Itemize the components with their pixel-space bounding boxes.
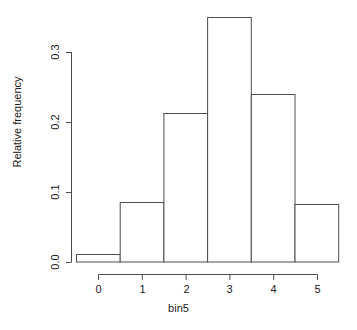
x-tick-label-2: 2 [174,283,199,295]
bar-1 [120,203,164,263]
bar-2 [164,114,208,263]
y-tick-label-1: 0.1 [49,179,61,205]
bar-4 [251,95,295,263]
x-axis-title: bin5 [0,302,357,314]
bar-5 [295,205,339,263]
y-tick-label-2: 0.2 [49,109,61,135]
bar-0 [77,255,121,263]
x-tick-label-3: 3 [217,283,242,295]
x-tick-label-0: 0 [86,283,111,295]
x-axis [99,275,318,281]
y-tick-label-3: 0.3 [49,39,61,65]
histogram-plot: 0.0 0.1 0.2 0.3 0 1 2 3 4 5 Relative fre… [0,0,357,330]
bars-group [77,18,339,263]
y-axis [66,52,72,263]
x-tick-label-4: 4 [261,283,286,295]
y-axis-title: Relative frequency [11,42,23,202]
bar-3 [208,18,252,263]
x-tick-label-1: 1 [130,283,155,295]
y-tick-label-0: 0.0 [49,249,61,275]
x-tick-label-5: 5 [305,283,330,295]
